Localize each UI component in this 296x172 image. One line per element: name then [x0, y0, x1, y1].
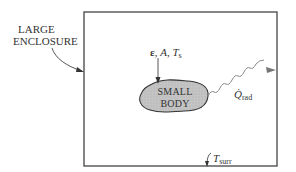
area-symbol: A: [160, 46, 167, 58]
body-properties-label: ε, A, Ts: [150, 46, 182, 62]
enclosure-arrowhead-icon: [76, 67, 84, 72]
enclosure-label-line1: LARGE: [18, 23, 55, 35]
surroundings-subscript: surr: [219, 157, 231, 166]
enclosure-label-line2: ENCLOSURE: [13, 35, 78, 47]
body-label-line2: BODY: [150, 98, 200, 110]
radiation-label: Q̇rad: [234, 88, 252, 104]
emissivity-symbol: ε: [150, 46, 155, 58]
radiation-diagram: LARGE ENCLOSURE ε, A, Ts SMALL BODY Q̇ra…: [0, 0, 296, 172]
radiation-subscript: rad: [242, 93, 252, 102]
radiation-arrowhead-icon: [266, 67, 276, 73]
radiation-symbol: Q̇: [234, 88, 242, 100]
surroundings-temp-label: Tsurr: [213, 152, 232, 168]
body-label-line1: SMALL: [150, 86, 200, 98]
surface-temp-subscript: s: [179, 51, 182, 60]
